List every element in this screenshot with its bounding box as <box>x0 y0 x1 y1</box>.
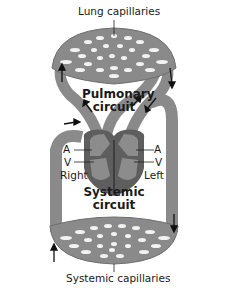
systemic-capillaries-label: Systemic capillaries <box>66 273 170 284</box>
left-ventricle-label: V <box>155 157 162 168</box>
left-side-label: Left <box>144 170 164 181</box>
pulmonary-circuit-line2: circuit <box>82 101 146 114</box>
right-side-label: Right <box>60 170 88 181</box>
systemic-circuit-line2: circuit <box>82 199 146 212</box>
pulmonary-circuit-label: Pulmonary circuit <box>82 88 146 114</box>
lung-capillaries-label: Lung capillaries <box>78 6 160 17</box>
circulation-graphic <box>0 0 230 288</box>
left-atrium-label: A <box>154 144 161 155</box>
systemic-capillary-bed <box>50 217 178 264</box>
right-atrium-label: A <box>63 144 70 155</box>
circulatory-diagram: Lung capillaries Pulmonary circuit A V R… <box>0 0 230 288</box>
systemic-circuit-label: Systemic circuit <box>82 186 146 212</box>
right-ventricle-label: V <box>64 157 71 168</box>
lung-capillary-bed <box>52 28 176 84</box>
